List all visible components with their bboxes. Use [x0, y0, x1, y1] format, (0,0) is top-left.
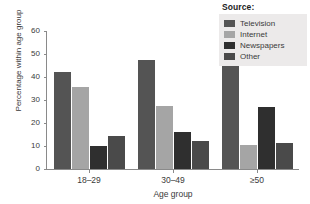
bar-other-0	[108, 136, 125, 169]
bar-chart-figure: Percentage within age group 010203040506…	[0, 0, 310, 204]
bar-other-2	[276, 143, 293, 169]
x-tick-label: 18–29	[77, 175, 101, 185]
legend-item-label: Other	[240, 51, 260, 62]
y-axis-ticks: 0102030405060	[18, 26, 44, 174]
bar-internet-2	[240, 145, 257, 169]
legend-swatch-icon	[224, 42, 235, 49]
x-tick-mark	[89, 169, 90, 173]
y-tick-label: 40	[31, 73, 40, 81]
bar-internet-0	[72, 87, 89, 169]
legend-swatch-icon	[224, 53, 235, 60]
bar-television-1	[138, 60, 155, 169]
y-tick-label: 50	[31, 50, 40, 58]
x-tick-mark	[257, 169, 258, 173]
legend-swatch-icon	[224, 20, 235, 27]
y-tick-label: 10	[31, 142, 40, 150]
y-tick-label: 30	[31, 96, 40, 104]
legend-box: TelevisionInternetNewspapersOther	[219, 14, 307, 66]
x-tick-label: ≥50	[250, 175, 264, 185]
bar-other-1	[192, 141, 209, 169]
legend-item-other: Other	[224, 51, 303, 62]
legend-item-internet: Internet	[224, 29, 303, 40]
bar-newspapers-1	[174, 132, 191, 169]
legend: Source: TelevisionInternetNewspapersOthe…	[219, 2, 307, 66]
legend-item-television: Television	[224, 18, 303, 29]
legend-swatch-icon	[224, 31, 235, 38]
legend-item-label: Television	[240, 18, 275, 29]
bar-television-0	[54, 72, 71, 169]
legend-title: Source:	[222, 2, 307, 12]
y-tick-label: 60	[31, 27, 40, 35]
bar-internet-1	[156, 106, 173, 169]
bar-newspapers-0	[90, 146, 107, 169]
legend-item-label: Internet	[240, 29, 267, 40]
bar-newspapers-2	[258, 107, 275, 169]
y-tick-label: 0	[36, 165, 40, 173]
y-tick-label: 20	[31, 119, 40, 127]
legend-item-newspapers: Newspapers	[224, 40, 303, 51]
x-axis-ticks: 18–2930–49≥50	[47, 169, 299, 189]
bar-group	[54, 31, 125, 169]
x-tick-mark	[173, 169, 174, 173]
x-tick-label: 30–49	[161, 175, 185, 185]
x-axis-title: Age group	[47, 189, 299, 199]
bar-group	[138, 31, 209, 169]
legend-item-label: Newspapers	[240, 40, 284, 51]
